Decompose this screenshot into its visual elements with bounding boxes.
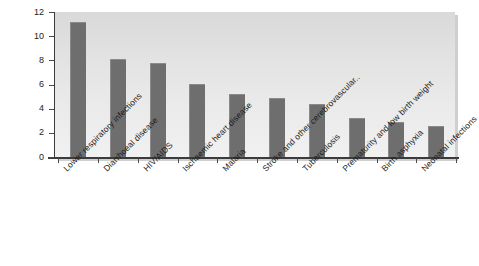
x-tick-mark — [58, 158, 59, 163]
y-tick-label: 6 — [0, 80, 44, 89]
y-tick-mark — [49, 60, 54, 61]
y-tick-label: 0 — [0, 153, 44, 162]
x-tick-mark — [257, 158, 258, 163]
y-tick-mark — [49, 36, 54, 37]
x-tick-mark — [98, 158, 99, 163]
y-tick-label: 12 — [0, 8, 44, 17]
y-tick-label: 2 — [0, 128, 44, 137]
x-tick-mark — [178, 158, 179, 163]
x-tick-mark — [138, 158, 139, 163]
y-tick-mark — [49, 157, 54, 158]
y-tick-label: 8 — [0, 56, 44, 65]
y-tick-label: 10 — [0, 32, 44, 41]
y-tick-mark — [49, 12, 54, 13]
bar[interactable] — [70, 22, 86, 157]
x-tick-mark — [217, 158, 218, 163]
x-tick-mark — [297, 158, 298, 163]
x-tick-mark — [456, 158, 457, 163]
y-tick-label: 4 — [0, 104, 44, 113]
y-axis-line — [54, 12, 55, 158]
y-tick-mark — [49, 109, 54, 110]
x-tick-mark — [337, 158, 338, 163]
x-tick-mark — [416, 158, 417, 163]
x-tick-mark — [377, 158, 378, 163]
y-tick-mark — [49, 133, 54, 134]
y-tick-mark — [49, 85, 54, 86]
